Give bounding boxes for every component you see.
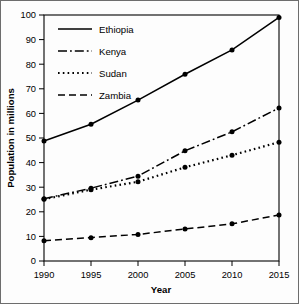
y-tick-label: 50: [26, 133, 36, 143]
x-tick-label: 1990: [34, 270, 55, 280]
data-point: [230, 129, 235, 134]
data-point: [89, 235, 94, 240]
y-tick-label: 90: [26, 35, 36, 45]
x-tick-label: 2005: [175, 270, 196, 280]
x-tick-label: 1995: [81, 270, 102, 280]
y-axis-ticks: 0102030405060708090100: [20, 10, 44, 266]
x-tick-label: 2010: [222, 270, 243, 280]
population-line-chart: 0102030405060708090100 19901995200020052…: [1, 1, 299, 304]
plot-area: [44, 15, 279, 261]
legend-label-ethiopia: Ethiopia: [99, 24, 134, 35]
data-point: [230, 47, 235, 52]
x-axis-ticks: 199019952000200520102015: [34, 261, 290, 280]
data-point: [136, 179, 141, 184]
y-tick-label: 70: [26, 84, 36, 94]
data-point: [277, 140, 282, 145]
data-point: [230, 221, 235, 226]
x-tick-label: 2000: [128, 270, 149, 280]
legend-label-zambia: Zambia: [99, 90, 132, 101]
data-point: [136, 232, 141, 237]
x-axis-title: Year: [151, 284, 172, 295]
x-tick-label: 2015: [269, 270, 290, 280]
y-tick-label: 20: [26, 207, 36, 217]
y-tick-label: 100: [20, 10, 36, 20]
data-point: [230, 153, 235, 158]
data-point: [183, 148, 188, 153]
data-point: [277, 15, 282, 20]
data-point: [277, 105, 282, 110]
y-axis-title: Population in millions: [5, 88, 16, 188]
data-point: [42, 138, 47, 143]
y-tick-label: 40: [26, 158, 36, 168]
data-point: [136, 98, 141, 103]
data-point: [42, 238, 47, 243]
legend-label-kenya: Kenya: [99, 46, 127, 57]
y-tick-label: 10: [26, 232, 36, 242]
data-point: [183, 165, 188, 170]
data-point: [89, 187, 94, 192]
image-border: 0102030405060708090100 19901995200020052…: [0, 0, 299, 304]
y-tick-label: 30: [26, 183, 36, 193]
data-point: [89, 122, 94, 127]
y-tick-label: 0: [31, 256, 36, 266]
data-point: [183, 227, 188, 232]
y-tick-label: 60: [26, 109, 36, 119]
data-point: [136, 174, 141, 179]
data-point: [183, 72, 188, 77]
legend-label-sudan: Sudan: [99, 68, 127, 79]
data-point: [277, 212, 282, 217]
y-tick-label: 80: [26, 60, 36, 70]
data-point: [42, 197, 47, 202]
